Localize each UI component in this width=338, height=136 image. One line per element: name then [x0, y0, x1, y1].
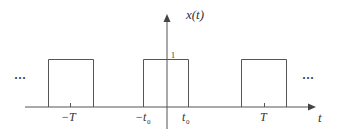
pulse-left	[49, 60, 94, 108]
amplitude-label: 1	[171, 51, 175, 60]
x-axis-arrow-icon	[308, 104, 316, 111]
svg-text:0: 0	[147, 118, 151, 126]
tick-label-neg-T: −T	[61, 110, 77, 124]
svg-text:−t: −t	[135, 110, 147, 124]
y-axis-arrow-icon	[164, 14, 171, 22]
pulse-right	[242, 60, 287, 108]
x-axis-label: t	[318, 110, 322, 125]
ellipsis-left: ···	[14, 71, 26, 85]
ellipsis-right: ···	[302, 71, 314, 85]
pulse-train-diagram: x(t) 1 t ··· ··· −T T −t 0 t 0	[0, 0, 338, 136]
tick-label-T: T	[260, 110, 268, 124]
y-axis-label: x(t)	[185, 7, 204, 22]
svg-text:0: 0	[186, 118, 190, 126]
pulse-center	[144, 60, 189, 108]
tick-label-t0: t 0	[182, 110, 190, 126]
tick-label-neg-t0: −t 0	[135, 110, 151, 126]
y-axis	[164, 14, 171, 129]
